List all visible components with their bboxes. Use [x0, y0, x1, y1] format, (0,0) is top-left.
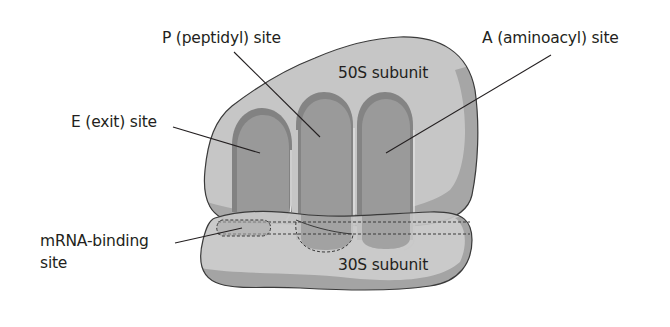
large-subunit-label: 50S subunit	[338, 64, 428, 83]
a-site-label: A (aminoacyl) site	[482, 29, 619, 48]
p-site-label: P (peptidyl) site	[162, 29, 281, 48]
small-subunit-label: 30S subunit	[338, 256, 428, 275]
e-site-shape	[232, 108, 292, 224]
mrna-binding-label-line2: site	[40, 254, 67, 273]
ribosome-illustration	[0, 0, 670, 327]
ribosome-diagram: P (peptidyl) site A (aminoacyl) site E (…	[0, 0, 670, 327]
e-site-label: E (exit) site	[71, 113, 157, 132]
mrna-binding-label-line1: mRNA-binding	[40, 232, 149, 251]
